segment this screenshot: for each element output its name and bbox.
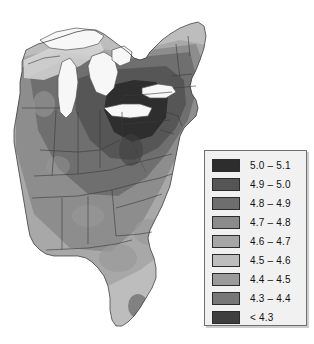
legend-label: 4.3 – 4.4 — [250, 292, 291, 305]
ph-contour-bands — [0, 0, 212, 344]
legend-item: 4.7 – 4.8 — [205, 213, 306, 232]
legend-item: 5.0 – 5.1 — [205, 156, 306, 175]
legend-label: 4.8 – 4.9 — [250, 197, 291, 210]
legend-swatch — [212, 292, 240, 305]
legend-label: 4.7 – 4.8 — [250, 216, 291, 229]
legend-label: 4.4 – 4.5 — [250, 273, 291, 286]
legend-swatch — [212, 178, 240, 191]
ph-map-figure: 5.0 – 5.1 4.9 – 5.0 4.8 – 4.9 4.7 – 4.8 … — [0, 0, 314, 344]
legend-swatch — [212, 311, 240, 324]
legend-item: 4.9 – 5.0 — [205, 175, 306, 194]
legend-item: 4.5 – 4.6 — [205, 251, 306, 270]
legend-label: 5.0 – 5.1 — [250, 159, 291, 172]
legend-swatch — [212, 254, 240, 267]
legend-swatch — [212, 216, 240, 229]
legend-swatch — [212, 159, 240, 172]
legend-label: < 4.3 — [250, 311, 274, 324]
legend-item: 4.4 – 4.5 — [205, 270, 306, 289]
legend-swatch — [212, 235, 240, 248]
legend-swatch — [212, 273, 240, 286]
eastern-us-ph-map — [0, 0, 212, 344]
ph-legend: 5.0 – 5.1 4.9 – 5.0 4.8 – 4.9 4.7 – 4.8 … — [204, 150, 307, 326]
legend-label: 4.9 – 5.0 — [250, 178, 291, 191]
legend-item: 4.3 – 4.4 — [205, 289, 306, 308]
legend-item: 4.8 – 4.9 — [205, 194, 306, 213]
legend-item: 4.6 – 4.7 — [205, 232, 306, 251]
legend-label: 4.6 – 4.7 — [250, 235, 291, 248]
legend-item: < 4.3 — [205, 308, 306, 327]
legend-swatch — [212, 197, 240, 210]
map-panel — [0, 0, 212, 344]
legend-label: 4.5 – 4.6 — [250, 254, 291, 267]
